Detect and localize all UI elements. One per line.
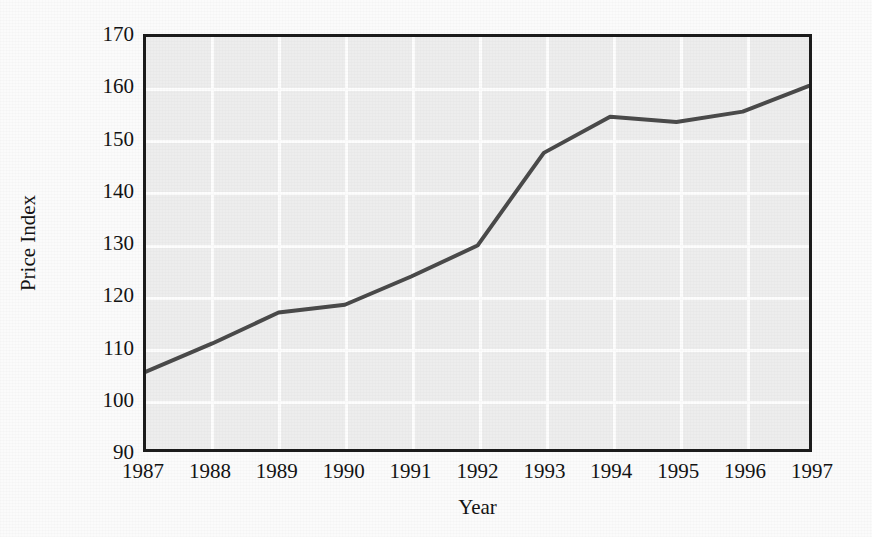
plot-inner [146, 37, 809, 449]
x-axis-tick-labels: 1987198819891990199119921993199419951996… [143, 461, 812, 491]
y-axis-tick-label: 140 [74, 180, 134, 201]
y-axis-tick-label: 160 [74, 76, 134, 97]
plot-area [143, 34, 812, 452]
y-axis-title-container: Price Index [0, 34, 56, 452]
x-axis-tick-label: 1997 [767, 461, 857, 482]
y-axis-title: Price Index [18, 195, 39, 291]
series-line-price-index [146, 37, 809, 449]
chart-figure: Price Index 17016015014013012011010090 1… [0, 0, 872, 537]
y-axis-tick-label: 130 [74, 233, 134, 254]
y-axis-tick-label: 170 [74, 24, 134, 45]
line-chart: Price Index 17016015014013012011010090 1… [0, 0, 872, 537]
y-axis-tick-label: 120 [74, 285, 134, 306]
y-axis-tick-label: 150 [74, 128, 134, 149]
x-axis-title: Year [143, 497, 812, 518]
y-axis-tick-labels: 17016015014013012011010090 [72, 34, 134, 452]
y-axis-tick-label: 110 [74, 337, 134, 358]
y-axis-tick-label: 100 [74, 389, 134, 410]
